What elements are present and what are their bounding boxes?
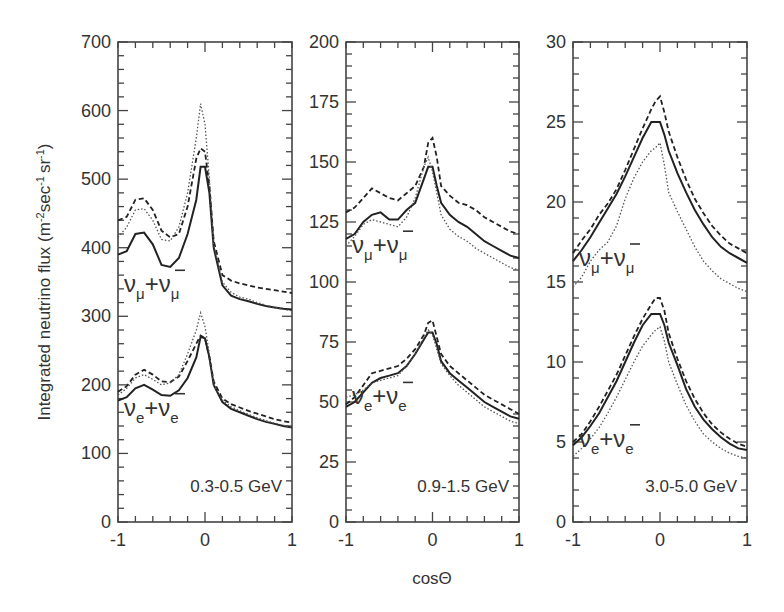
flavor-label-muon: νμ+νμ: [579, 244, 634, 276]
y-tick-label: 200: [309, 32, 339, 52]
y-tick-label: 5: [556, 432, 566, 452]
panel-high-energy: 051015202530-1013.0-5.0 GeVνμ+νμνe+νe: [546, 32, 752, 550]
y-tick-label: 600: [81, 101, 111, 121]
x-tick-label: 1: [742, 530, 752, 550]
x-tick-label: 0: [655, 530, 665, 550]
energy-range-label: 0.3-0.5 GeV: [190, 477, 282, 496]
y-tick-label: 150: [309, 152, 339, 172]
plot-frame: [346, 42, 519, 522]
y-tick-label: 175: [309, 92, 339, 112]
y-tick-label: 75: [319, 332, 339, 352]
x-tick-label: 0: [200, 530, 210, 550]
y-tick-label: 700: [81, 32, 111, 52]
x-tick-label: 1: [514, 530, 524, 550]
flavor-label-electron: νe+νe: [352, 382, 407, 414]
energy-range-label: 0.9-1.5 GeV: [417, 477, 509, 496]
y-tick-label: 25: [546, 112, 566, 132]
y-tick-label: 15: [546, 272, 566, 292]
y-tick-label: 100: [81, 443, 111, 463]
y-tick-label: 0: [101, 512, 111, 532]
y-tick-label: 125: [309, 212, 339, 232]
panel-low-energy: 0100200300400500600700-1010.3-0.5 GeVνμ+…: [81, 32, 297, 550]
flavor-label-electron: νe+νe: [124, 394, 179, 426]
flavor-label-muon: νμ+νμ: [124, 270, 179, 302]
y-tick-label: 200: [81, 375, 111, 395]
y-axis-label: Integrated neutrino flux (m-2sec-1sr-1): [34, 143, 54, 420]
x-tick-label: 0: [427, 530, 437, 550]
y-tick-label: 100: [309, 272, 339, 292]
flux-curve-solid: [573, 122, 747, 263]
y-tick-label: 400: [81, 238, 111, 258]
neutrino-flux-figure: Integrated neutrino flux (m-2sec-1sr-1) …: [0, 0, 784, 612]
y-tick-label: 0: [329, 512, 339, 532]
flavor-label-electron: νe+νe: [579, 425, 634, 457]
y-tick-label: 30: [546, 32, 566, 52]
y-tick-label: 20: [546, 192, 566, 212]
flux-curve-dashed: [346, 138, 519, 234]
x-tick-label: -1: [565, 530, 581, 550]
x-tick-label: 1: [287, 530, 297, 550]
flux-curve-dashed: [573, 96, 747, 253]
y-tick-label: 300: [81, 306, 111, 326]
x-axis-label: cosΘ: [412, 569, 452, 588]
x-tick-label: -1: [338, 530, 354, 550]
y-tick-label: 25: [319, 452, 339, 472]
panel-mid-energy: 0255075100125150175200-1010.9-1.5 GeVνμ+…: [309, 32, 524, 550]
x-tick-label: -1: [110, 530, 126, 550]
y-tick-label: 50: [319, 392, 339, 412]
y-tick-label: 500: [81, 169, 111, 189]
energy-range-label: 3.0-5.0 GeV: [645, 477, 737, 496]
y-tick-label: 10: [546, 352, 566, 372]
flavor-label-muon: νμ+νμ: [352, 231, 407, 263]
y-tick-label: 0: [556, 512, 566, 532]
